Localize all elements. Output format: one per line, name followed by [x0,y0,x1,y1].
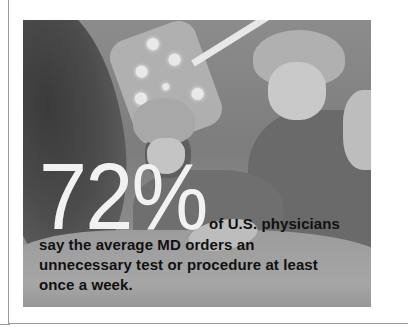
statistic-lead: of U.S. physicians [209,215,340,232]
statistic-overlay: 72% of U.S. physicians say the average M… [23,20,371,307]
divider [0,324,10,325]
statistic-line: unnecessary test or procedure at least [39,255,369,275]
statistic-line: once a week. [39,275,369,295]
statistic-line: say the average MD orders an [39,235,369,255]
statistic-value: 72% [39,150,207,244]
statistic-description: say the average MD orders an unnecessary… [39,235,369,295]
